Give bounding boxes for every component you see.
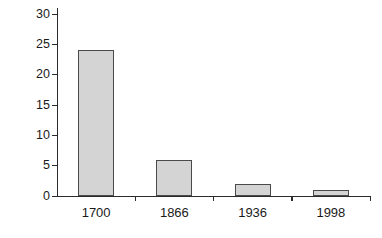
- y-axis-tick-labels: 051015202530: [0, 0, 50, 238]
- x-axis-category-label: 1936: [214, 205, 292, 220]
- y-axis-tick-label: 10: [4, 129, 50, 141]
- bar-1936: [235, 184, 271, 196]
- y-axis-tick-mark: [52, 196, 58, 197]
- bar-1998: [313, 190, 349, 196]
- bar-1700: [78, 50, 114, 196]
- x-axis-tick-mark: [135, 196, 136, 201]
- y-axis-tick-mark: [52, 44, 58, 45]
- y-axis-tick-label: 0: [4, 190, 50, 202]
- y-axis-tick-label: 20: [4, 68, 50, 80]
- y-axis-tick-label: 30: [4, 8, 50, 20]
- x-axis-category-label: 1700: [57, 205, 135, 220]
- y-axis-tick-mark: [52, 74, 58, 75]
- bar-1866: [156, 160, 192, 196]
- x-axis-tick-mark: [291, 196, 292, 201]
- y-axis-tick-label: 5: [4, 159, 50, 171]
- y-axis-tick-label: 15: [4, 99, 50, 111]
- x-axis-category-label: 1998: [292, 205, 370, 220]
- bar-chart: % in agriculture 051015202530 1700186619…: [0, 0, 382, 238]
- y-axis-line: [57, 8, 58, 197]
- y-axis-tick-mark: [52, 165, 58, 166]
- y-axis-tick-mark: [52, 14, 58, 15]
- x-axis-category-label: 1866: [135, 205, 213, 220]
- y-axis-tick-mark: [52, 135, 58, 136]
- x-axis-tick-mark: [213, 196, 214, 201]
- y-axis-tick-mark: [52, 105, 58, 106]
- y-axis-tick-label: 25: [4, 38, 50, 50]
- x-axis-tick-mark: [370, 196, 371, 201]
